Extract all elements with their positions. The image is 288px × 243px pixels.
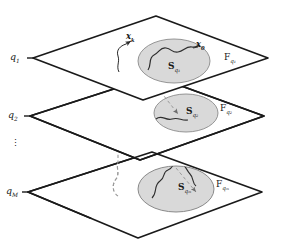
label-vertical-ellipsis: ⋮ (11, 142, 19, 145)
label-F-qM: Fqₘ (216, 180, 229, 191)
axis-stubs (22, 58, 33, 192)
label-x-k: xk (126, 32, 135, 43)
label-F-q2: Fq₂ (220, 104, 232, 115)
label-S-qM: Sqₘ (178, 183, 192, 194)
label-q1: q1 (10, 52, 20, 65)
label-S-q2: Sq₂ (186, 107, 198, 118)
label-q2: q2 (8, 110, 18, 123)
label-S-q1: Sq₁ (168, 62, 180, 73)
layered-manifold-figure (0, 0, 288, 243)
label-qM: qM (6, 186, 18, 199)
label-F-q1: Fq₁ (224, 53, 236, 64)
label-x-0: x0 (196, 40, 205, 51)
